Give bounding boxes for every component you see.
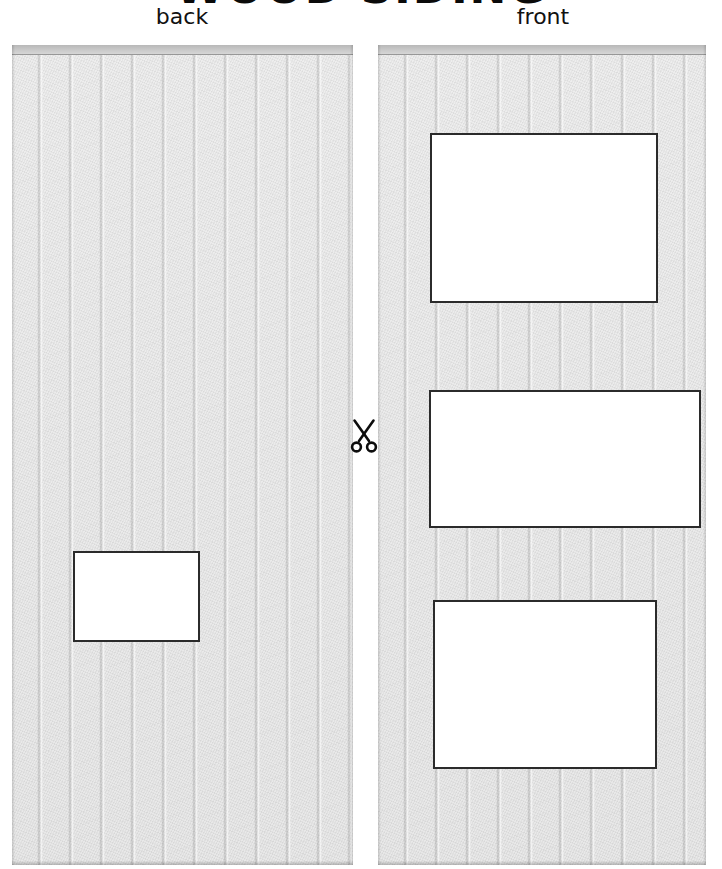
panel-left-edge xyxy=(378,45,381,865)
page-title: WOOD SIDING xyxy=(0,0,722,10)
panel-top-cap xyxy=(378,45,706,55)
panel-bottom-shadow xyxy=(12,861,353,865)
panel-label-back: back xyxy=(112,4,252,30)
siding-board-texture xyxy=(12,45,353,865)
cutout-front-lower-window xyxy=(433,600,657,769)
scissors-icon xyxy=(348,418,380,454)
panel-top-cap xyxy=(12,45,353,55)
cutout-back-window xyxy=(73,551,200,642)
panel-left-edge xyxy=(12,45,15,865)
cutout-front-middle-door xyxy=(429,390,701,528)
panel-label-front: front xyxy=(473,4,613,30)
cutout-front-upper-window xyxy=(430,133,658,303)
panel-bottom-shadow xyxy=(378,861,706,865)
panel-right-edge xyxy=(703,45,706,865)
panel-right-edge xyxy=(350,45,353,865)
siding-panel-back xyxy=(12,45,353,865)
